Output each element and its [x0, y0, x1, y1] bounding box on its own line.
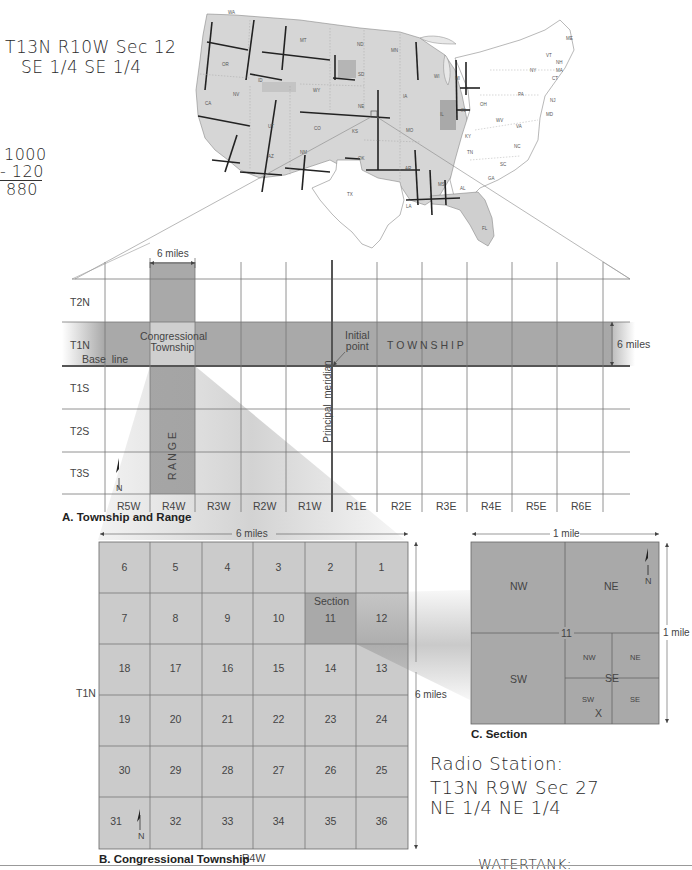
section-cell[interactable]: 2 [305, 561, 356, 573]
panel-a-graphic [62, 243, 635, 540]
col-label-r4e: R4E [481, 500, 501, 512]
svg-text:AR: AR [405, 166, 412, 171]
township-word: T O W N S H I P [387, 339, 464, 351]
svg-text:OR: OR [222, 62, 230, 67]
col-label-r3e: R3E [436, 500, 456, 512]
section-cell[interactable]: 14 [305, 662, 356, 674]
initial-point-2: point [345, 341, 370, 352]
section-cell[interactable]: 29 [150, 764, 201, 776]
section-cell[interactable]: 6 [99, 561, 150, 573]
section-cell[interactable]: 21 [202, 713, 253, 725]
svg-text:MA: MA [556, 68, 563, 73]
width-label-6-miles-b: 6 miles [236, 528, 268, 539]
section-cell[interactable]: 9 [202, 612, 253, 624]
section-cell[interactable]: 23 [305, 713, 356, 725]
row-label-t2s: T2S [70, 425, 89, 437]
section-cell[interactable]: 17 [150, 662, 201, 674]
section-cell[interactable]: 36 [356, 815, 407, 827]
section-cell[interactable]: 18 [99, 662, 150, 674]
row-label-t1n: T1N [70, 339, 90, 351]
svg-text:AZ: AZ [268, 154, 274, 159]
col-label-r2e: R2E [391, 500, 411, 512]
quarter-ne[interactable]: NE [604, 580, 619, 592]
svg-text:NV: NV [233, 92, 239, 97]
quarter-nw[interactable]: NW [510, 580, 528, 592]
section-cell[interactable]: 32 [150, 815, 201, 827]
svg-text:NY: NY [530, 68, 536, 73]
svg-text:VA: VA [516, 124, 522, 129]
svg-text:NE: NE [358, 104, 364, 109]
svg-text:AL: AL [460, 186, 466, 191]
row-label-t1n-b: T1N [76, 687, 96, 699]
section-cell[interactable]: 16 [202, 662, 253, 674]
section-cell[interactable]: 34 [253, 815, 304, 827]
col-label-r2w: R2W [253, 500, 276, 512]
section-cell-highlighted[interactable]: 11 [305, 612, 356, 624]
svg-text:LA: LA [406, 204, 412, 209]
sub-quarter-se[interactable]: SE [630, 695, 640, 704]
section-cell[interactable]: 1 [356, 561, 407, 573]
section-cell[interactable]: 7 [99, 612, 150, 624]
col-label-r1w: R1W [298, 500, 321, 512]
quarter-sw[interactable]: SW [510, 673, 527, 685]
section-cell[interactable]: 3 [253, 561, 304, 573]
section-cell[interactable]: 13 [356, 662, 407, 674]
caption-township-and-range: A. Township and Range [62, 511, 191, 523]
section-cell[interactable]: 24 [356, 713, 407, 725]
col-label-r3w: R3W [207, 500, 230, 512]
quarter-se[interactable]: SE [605, 672, 619, 684]
svg-text:MT: MT [300, 38, 307, 43]
congressional-label-2: Township [140, 342, 205, 353]
svg-text:IA: IA [403, 94, 407, 99]
col-label-r6e: R6E [571, 500, 591, 512]
section-cell[interactable]: 27 [253, 764, 304, 776]
sub-quarter-ne[interactable]: NE [630, 653, 640, 662]
section-cell[interactable]: 25 [356, 764, 407, 776]
svg-text:VT: VT [546, 53, 552, 58]
svg-text:TX: TX [347, 192, 353, 197]
svg-text:OH: OH [480, 102, 487, 107]
svg-text:WA: WA [228, 10, 235, 15]
svg-text:MN: MN [391, 48, 398, 53]
section-number-c: 11 [559, 627, 574, 639]
svg-text:TN: TN [467, 150, 473, 155]
row-label-t2n: T2N [70, 296, 90, 308]
svg-text:CO: CO [314, 126, 321, 131]
section-cell[interactable]: 30 [99, 764, 150, 776]
section-cell[interactable]: 5 [150, 561, 201, 573]
svg-text:NC: NC [514, 144, 521, 149]
col-label-r1e: R1E [346, 500, 366, 512]
section-cell[interactable]: 26 [305, 764, 356, 776]
north-label-b: N [138, 831, 145, 841]
svg-text:IL: IL [440, 112, 444, 117]
section-cell[interactable]: 35 [305, 815, 356, 827]
section-cell[interactable]: 28 [202, 764, 253, 776]
height-label-1-mile: 1 mile [663, 627, 690, 638]
principal-meridian-label: Principal meridian [322, 357, 333, 447]
section-cell[interactable]: 10 [253, 612, 304, 624]
section-cell[interactable]: 4 [202, 561, 253, 573]
svg-text:KY: KY [465, 134, 471, 139]
svg-text:SD: SD [358, 72, 365, 77]
section-cell[interactable]: 31 [96, 815, 136, 827]
svg-text:KS: KS [352, 129, 358, 134]
section-cell[interactable]: 12 [356, 612, 407, 624]
svg-text:MD: MD [546, 112, 554, 117]
sub-quarter-nw[interactable]: NW [583, 653, 596, 662]
section-cell[interactable]: 33 [202, 815, 253, 827]
north-label-a: N [116, 483, 123, 493]
section-cell[interactable]: 20 [150, 713, 201, 725]
svg-text:WV: WV [496, 118, 503, 123]
svg-text:CT: CT [552, 76, 558, 81]
svg-text:MI: MI [455, 76, 460, 81]
col-label-r5e: R5E [526, 500, 546, 512]
svg-text:PA: PA [518, 92, 524, 97]
svg-text:ME: ME [566, 36, 573, 41]
sub-quarter-sw[interactable]: SW [582, 695, 594, 704]
section-cell[interactable]: 8 [150, 612, 201, 624]
section-cell[interactable]: 22 [253, 713, 304, 725]
section-label: Section [314, 595, 349, 607]
svg-text:GA: GA [488, 176, 495, 181]
section-cell[interactable]: 19 [99, 713, 150, 725]
section-cell[interactable]: 15 [253, 662, 304, 674]
